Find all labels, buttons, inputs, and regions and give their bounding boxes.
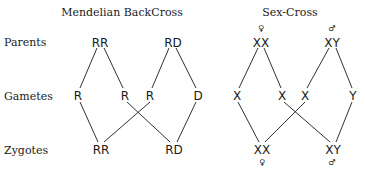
edge [104, 48, 123, 88]
sex-gamete: X [301, 89, 309, 103]
sex-parent-xx: XX [253, 36, 269, 50]
sex-gamete: X [278, 89, 286, 103]
sex-cross-edges [238, 48, 352, 142]
mendelian-parent-rr: RR [92, 36, 109, 50]
edge [284, 102, 330, 142]
edge [80, 48, 97, 88]
mendelian-zygote-rr: RR [93, 143, 110, 157]
edge [336, 102, 352, 142]
sex-gamete: Y [348, 89, 357, 103]
mendelian-gamete: R [146, 89, 154, 103]
mendelian-zygote-rd: RD [165, 143, 183, 157]
sex-zygote-xy: XY [325, 143, 341, 157]
edge [239, 48, 258, 88]
sex-parent-xy: XY [324, 36, 340, 50]
edge [127, 102, 170, 142]
female-symbol-icon: ♀ [258, 24, 264, 33]
male-symbol-icon: ♂ [328, 158, 335, 167]
sex-cross-title: Sex-Cross [262, 6, 318, 19]
mendelian-edges [80, 48, 196, 142]
edge [336, 48, 352, 88]
edge [307, 48, 329, 88]
row-label-gametes: Gametes [4, 90, 53, 103]
mendelian-title: Mendelian BackCross [61, 6, 183, 19]
mendelian-gamete: R [74, 89, 82, 103]
mendelian-gamete: R [121, 89, 129, 103]
edge [152, 48, 169, 88]
edge [104, 102, 150, 142]
sex-zygote-xx: XX [254, 143, 270, 157]
genetics-cross-diagram: Mendelian BackCross Sex-Cross Parents Ga… [0, 0, 365, 169]
female-symbol-icon: ♀ [259, 158, 265, 167]
row-label-zygotes: Zygotes [4, 144, 48, 157]
male-symbol-icon: ♂ [328, 24, 335, 33]
edge [177, 102, 196, 142]
sex-gamete: X [233, 89, 241, 103]
row-label-parents: Parents [4, 36, 47, 49]
mendelian-gamete: D [193, 89, 202, 103]
edge [265, 102, 305, 142]
edge [264, 48, 281, 88]
mendelian-parent-rd: RD [164, 36, 182, 50]
edge [80, 102, 98, 142]
edge [176, 48, 196, 88]
edge [238, 102, 259, 142]
